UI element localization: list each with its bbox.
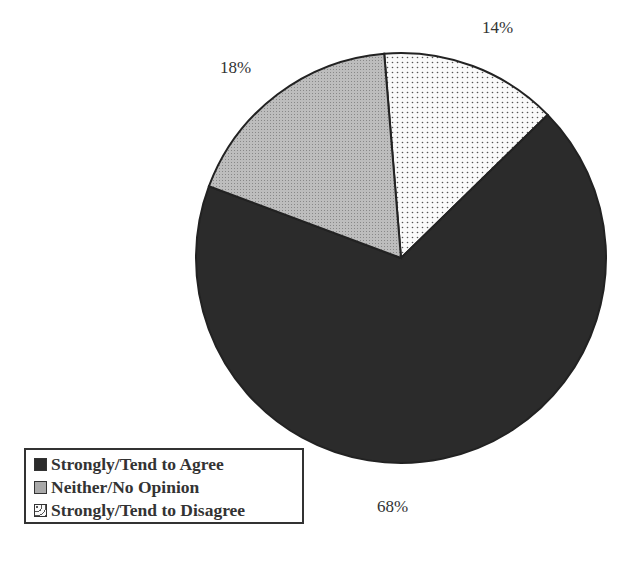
- swatch-gray-icon: [34, 481, 47, 494]
- slice-label-neither: 18%: [220, 58, 251, 78]
- legend-item-agree: Strongly/Tend to Agree: [34, 453, 302, 476]
- slice-label-agree: 68%: [377, 497, 408, 517]
- legend-label: Strongly/Tend to Agree: [51, 454, 224, 475]
- slice-label-disagree: 14%: [482, 18, 513, 38]
- swatch-dotted-icon: [34, 504, 47, 517]
- legend-label: Strongly/Tend to Disagree: [51, 500, 245, 521]
- swatch-dark-icon: [34, 458, 47, 471]
- legend-item-disagree: Strongly/Tend to Disagree: [34, 499, 302, 522]
- legend: Strongly/Tend to Agree Neither/No Opinio…: [24, 448, 304, 524]
- legend-label: Neither/No Opinion: [51, 477, 199, 498]
- legend-item-neither: Neither/No Opinion: [34, 476, 302, 499]
